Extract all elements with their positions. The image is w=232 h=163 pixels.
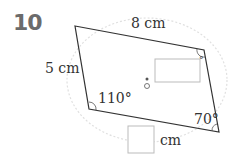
parallelogram-diagram: 8 cm 5 cm 110° 70° ° cm [0,0,232,163]
left-side-label: 5 cm [45,60,79,76]
length-answer-box[interactable] [128,126,154,153]
center-dot [146,78,149,81]
angle-answer-box[interactable] [155,59,200,82]
angle-top-right-degree: ° [199,55,204,65]
top-side-label: 8 cm [131,15,165,31]
angle-bottom-right-label: 70° [194,111,219,127]
angle-bottom-left-label: 110° [98,90,132,106]
answer-unit-label: cm [160,132,181,148]
center-ring [145,84,150,89]
